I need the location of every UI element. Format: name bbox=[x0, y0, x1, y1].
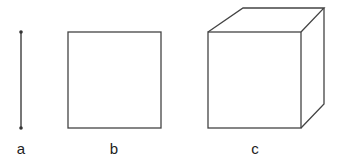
label-a: a bbox=[17, 141, 25, 156]
cube-front-face bbox=[208, 32, 301, 128]
square-outline bbox=[68, 32, 161, 128]
label-b: b bbox=[110, 141, 118, 156]
figure-a-line bbox=[19, 30, 23, 130]
line-endpoint-bottom bbox=[19, 126, 23, 130]
cube-top-face bbox=[208, 8, 324, 32]
label-c: c bbox=[251, 141, 259, 156]
figure-c-cube bbox=[208, 8, 324, 128]
cube-side-face bbox=[301, 8, 324, 128]
line-endpoint-top bbox=[19, 30, 23, 34]
dimension-diagram bbox=[0, 0, 341, 163]
figure-b-square bbox=[68, 32, 161, 128]
